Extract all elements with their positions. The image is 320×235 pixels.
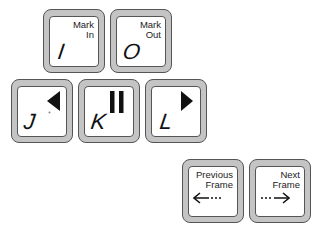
key-letter-j: J bbox=[22, 111, 36, 133]
key-face: Previous Frame bbox=[188, 166, 238, 217]
play-reverse-key[interactable]: J bbox=[11, 79, 73, 143]
key-face: L bbox=[151, 86, 201, 137]
play-reverse-icon bbox=[47, 91, 61, 111]
mark-in-key[interactable]: Mark In I bbox=[43, 9, 105, 73]
arrow-left-icon bbox=[193, 192, 223, 204]
key-face: Mark In I bbox=[49, 16, 99, 67]
key-letter-k: K bbox=[89, 111, 107, 133]
play-forward-key[interactable]: L bbox=[145, 79, 207, 143]
previous-frame-legend: Previous Frame bbox=[196, 170, 233, 190]
mark-out-legend: Mark Out bbox=[140, 20, 161, 40]
dot-icon bbox=[48, 111, 51, 114]
next-frame-key[interactable]: Next Frame bbox=[249, 159, 311, 223]
pause-icon bbox=[110, 91, 124, 113]
play-forward-icon bbox=[181, 91, 193, 111]
next-frame-legend: Next Frame bbox=[273, 170, 300, 190]
key-face: K bbox=[84, 86, 134, 137]
key-face: Mark Out O bbox=[116, 16, 166, 67]
pause-key[interactable]: K bbox=[78, 79, 140, 143]
mark-in-legend: Mark In bbox=[73, 20, 94, 40]
key-face: J bbox=[17, 86, 67, 137]
mark-out-key[interactable]: Mark Out O bbox=[110, 9, 172, 73]
key-letter-i: I bbox=[56, 41, 65, 63]
key-face: Next Frame bbox=[255, 166, 305, 217]
key-letter-l: L bbox=[158, 111, 173, 133]
previous-frame-key[interactable]: Previous Frame bbox=[182, 159, 244, 223]
key-letter-o: O bbox=[121, 41, 141, 63]
arrow-right-icon bbox=[260, 192, 290, 204]
